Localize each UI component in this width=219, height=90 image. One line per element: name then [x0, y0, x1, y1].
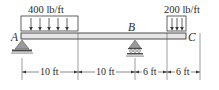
dimension-label-bc1: 6 ft — [142, 67, 158, 77]
dimension-label-ab1: 10 ft — [39, 67, 60, 77]
load-label-200: 200 lb/ft — [164, 5, 200, 16]
dimension-label-ab2: 10 ft — [95, 67, 116, 77]
distributed-load-400 — [21, 16, 78, 31]
roller-support-icon — [126, 40, 144, 57]
point-label-b: B — [128, 22, 135, 34]
point-label-c: C — [188, 32, 196, 44]
beam — [21, 33, 186, 39]
dimension-label-bc2: 6 ft — [175, 67, 191, 77]
point-label-a: A — [11, 32, 18, 44]
load-label-400: 400 lb/ft — [28, 5, 64, 16]
distributed-load-200 — [167, 16, 186, 31]
